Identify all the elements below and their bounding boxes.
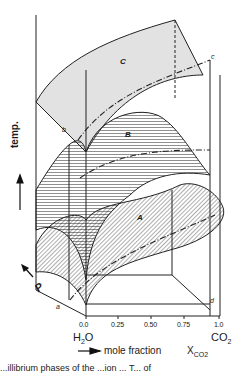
x-tick-3: 0.75 <box>177 321 190 328</box>
point-c-label: c <box>211 53 215 60</box>
h2o-label: H2O <box>73 331 93 345</box>
x-axis-label: mole fraction <box>104 345 161 356</box>
point-a-label: a <box>56 303 60 310</box>
point-d-label: d <box>210 297 214 304</box>
surface-a-label: A <box>137 213 143 222</box>
x-tick-1: 0.25 <box>111 321 124 328</box>
temperature-axis-label: temp. <box>9 121 20 148</box>
point-b-label: b <box>62 126 66 133</box>
x-tick-0: 0.0 <box>79 321 88 328</box>
co2-label: CO2 <box>211 331 231 345</box>
x-tick-2: 0.50 <box>144 321 157 328</box>
x-tick-4: 1.0 <box>214 321 223 328</box>
surface-c-label: C <box>120 57 126 66</box>
x-variable-label: XCO2 <box>187 345 208 358</box>
figure-caption: ...illibrium phases of the ...ion ... T.… <box>0 363 240 373</box>
surface-b-label: B <box>125 130 131 139</box>
